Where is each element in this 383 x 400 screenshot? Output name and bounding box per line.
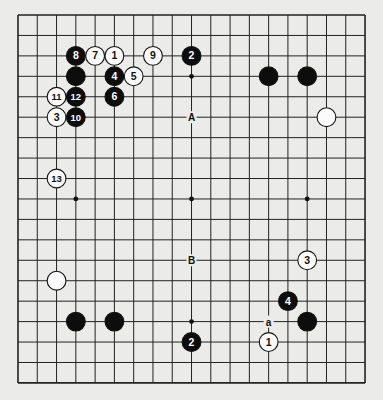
move-number: 2 — [189, 49, 195, 61]
white-stone — [317, 108, 336, 127]
move-number: 1 — [111, 49, 117, 61]
black-stone-6: 6 — [105, 87, 124, 106]
black-stone-2: 2 — [182, 46, 201, 65]
black-stone — [259, 67, 278, 86]
white-stone-1: 1 — [259, 333, 278, 352]
move-number: 13 — [51, 173, 62, 184]
white-stone-11: 11 — [47, 87, 66, 106]
black-stone-icon — [105, 312, 124, 331]
star-point — [189, 197, 194, 202]
move-number: 4 — [111, 70, 117, 82]
move-number: 8 — [73, 49, 79, 61]
black-stone-icon — [298, 312, 317, 331]
move-number: 10 — [71, 112, 82, 123]
black-stone — [66, 67, 85, 86]
move-number: 7 — [92, 49, 98, 61]
marker-label-a: a — [266, 317, 272, 328]
move-number: 6 — [111, 90, 117, 102]
black-stone — [105, 312, 124, 331]
black-stone-4: 4 — [105, 67, 124, 86]
black-stone-12: 12 — [66, 87, 85, 106]
white-stone — [47, 271, 66, 290]
move-number: 3 — [304, 254, 310, 266]
white-stone-3: 3 — [298, 251, 317, 270]
star-point — [73, 197, 78, 202]
white-stone-9: 9 — [144, 46, 163, 65]
black-stone-icon — [66, 312, 85, 331]
star-point — [189, 319, 194, 324]
black-stone — [298, 67, 317, 86]
move-number: 9 — [150, 49, 156, 61]
black-stone-10: 10 — [66, 108, 85, 127]
black-stone-4: 4 — [279, 292, 298, 311]
white-stone-icon — [47, 271, 66, 290]
white-stone-5: 5 — [124, 67, 143, 86]
white-stone-3: 3 — [47, 108, 66, 127]
move-number: 4 — [285, 295, 291, 307]
white-stone-icon — [317, 108, 336, 127]
black-stone-icon — [298, 67, 317, 86]
black-stone — [298, 312, 317, 331]
black-stone-8: 8 — [66, 46, 85, 65]
move-number: 11 — [52, 91, 63, 102]
black-stone-icon — [259, 67, 278, 86]
white-stone-1: 1 — [105, 46, 124, 65]
move-number: 5 — [131, 70, 137, 82]
go-board-diagram: ABa 871924511126310133421 — [0, 0, 383, 400]
white-stone-7: 7 — [86, 46, 105, 65]
move-number: 2 — [189, 336, 195, 348]
black-stone-2: 2 — [182, 333, 201, 352]
star-point — [189, 74, 194, 79]
go-board: ABa 871924511126310133421 — [0, 0, 383, 400]
white-stone-13: 13 — [47, 169, 66, 188]
move-number: 12 — [71, 91, 82, 102]
star-point — [305, 197, 310, 202]
move-number: 1 — [266, 336, 272, 348]
move-number: 3 — [54, 111, 60, 123]
marker-label-B: B — [188, 255, 195, 266]
black-stone — [66, 312, 85, 331]
black-stone-icon — [66, 67, 85, 86]
marker-label-A: A — [188, 112, 195, 123]
